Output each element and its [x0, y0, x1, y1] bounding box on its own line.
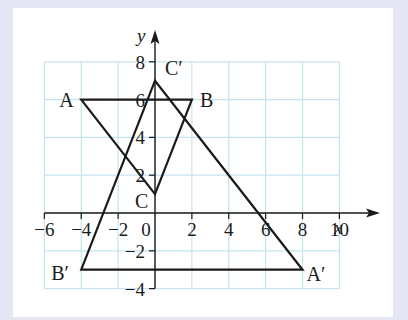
y-tick-label: −4: [125, 279, 146, 300]
coordinate-plane: −6−4−202468108642−2−4xyABCA′B′C′: [0, 0, 408, 320]
y-tick-label: 4: [136, 127, 146, 148]
y-tick-label: 8: [136, 52, 146, 73]
x-tick-label: 6: [261, 219, 271, 240]
x-tick-label: −4: [71, 219, 92, 240]
vertex-label: B: [200, 89, 213, 111]
x-axis-label: x: [333, 217, 343, 238]
x-tick-label: 0: [141, 219, 151, 240]
x-tick-label: 2: [187, 219, 197, 240]
y-tick-label: 6: [136, 90, 146, 111]
vertex-label: C: [135, 190, 148, 212]
y-tick-label: 2: [136, 165, 146, 186]
axes: [44, 30, 380, 289]
x-tick-label: −6: [34, 219, 54, 240]
vertex-label: B′: [51, 262, 69, 284]
vertex-label: A: [59, 89, 74, 111]
x-tick-label: 4: [224, 219, 234, 240]
x-tick-label: 8: [298, 219, 308, 240]
x-tick-label: −2: [108, 219, 128, 240]
vertex-label: A′: [307, 263, 326, 285]
grid-lines: [44, 62, 339, 289]
y-axis-label: y: [135, 25, 146, 46]
vertex-label: C′: [165, 57, 183, 79]
y-tick-label: −2: [125, 241, 145, 262]
